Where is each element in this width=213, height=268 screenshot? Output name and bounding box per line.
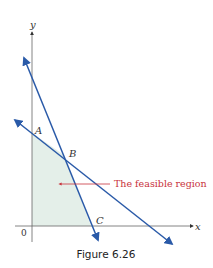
y-axis-label: y [29,19,36,30]
point-b-label: B [68,148,76,159]
origin-label: 0 [21,228,27,238]
feasible-region-diagram: y x 0 A B C The feasible region Figure 6… [0,0,213,268]
feasible-region-annotation: The feasible region [114,178,207,189]
feasible-region [32,133,91,226]
point-a-label: A [34,125,42,136]
figure-container: y x 0 A B C The feasible region Figure 6… [0,0,213,268]
figure-caption: Figure 6.26 [77,248,136,260]
point-c-label: C [96,215,104,226]
x-axis-label: x [195,221,201,232]
